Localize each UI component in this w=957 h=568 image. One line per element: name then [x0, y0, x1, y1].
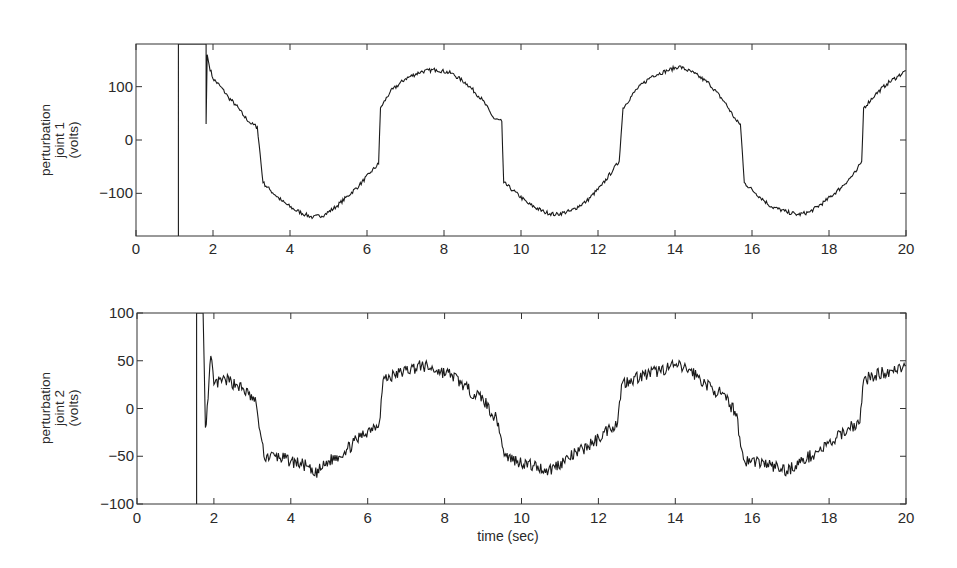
x-tick-label: 12: [590, 509, 607, 526]
plot-frame-joint-2: [137, 313, 906, 504]
ylabel-line-1: perturbation: [38, 372, 53, 444]
x-tick-label: 8: [440, 240, 448, 257]
ylabel-line-2: joint 2: [52, 390, 67, 427]
x-tick-label: 18: [821, 509, 838, 526]
figure: perturbation joint 1 (volts) 02468101214…: [0, 0, 957, 568]
y-tick-label: −50: [109, 447, 134, 464]
y-tick-label: 100: [108, 78, 133, 95]
x-tick-label: 18: [821, 240, 838, 257]
line-series-joint-1: [178, 44, 906, 236]
y-tick-label: 100: [109, 304, 134, 321]
ylabel-line-2: joint 1: [52, 122, 67, 159]
x-tick-label: 2: [209, 240, 217, 257]
plot-joint-2: perturbation joint 2 (volts) 02468101214…: [38, 304, 914, 544]
x-tick-label: 4: [286, 240, 294, 257]
ticks-joint-1: 02468101214161820−1000100: [99, 44, 914, 257]
x-tick-label: 12: [590, 240, 607, 257]
y-tick-label: 50: [117, 352, 134, 369]
x-tick-label: 20: [898, 509, 915, 526]
x-tick-label: 10: [513, 240, 530, 257]
x-axis-label: time (sec): [477, 528, 538, 544]
x-tick-label: 4: [287, 509, 295, 526]
y-tick-label: 0: [125, 131, 133, 148]
y-axis-label-joint-1: perturbation joint 1 (volts): [38, 104, 81, 176]
y-axis-label-joint-2: perturbation joint 2 (volts): [38, 372, 81, 444]
x-tick-label: 0: [132, 240, 140, 257]
ylabel-line-3: (volts): [66, 122, 81, 159]
x-tick-label: 14: [667, 509, 684, 526]
x-tick-label: 6: [363, 240, 371, 257]
x-tick-label: 8: [440, 509, 448, 526]
y-tick-label: 0: [126, 400, 134, 417]
x-tick-label: 2: [210, 509, 218, 526]
x-tick-label: 20: [898, 240, 915, 257]
y-tick-label: −100: [100, 495, 134, 512]
line-series-joint-2: [197, 313, 906, 504]
x-tick-label: 0: [133, 509, 141, 526]
x-tick-label: 16: [744, 240, 761, 257]
ticks-joint-2: 02468101214161820−100−50050100: [100, 304, 914, 526]
plot-joint-1: perturbation joint 1 (volts) 02468101214…: [38, 44, 914, 257]
ylabel-line-3: (volts): [66, 390, 81, 427]
plot-frame-joint-1: [136, 44, 906, 236]
x-tick-label: 6: [364, 509, 372, 526]
x-tick-label: 16: [744, 509, 761, 526]
x-tick-label: 14: [667, 240, 684, 257]
x-tick-label: 10: [513, 509, 530, 526]
y-tick-label: −100: [99, 184, 133, 201]
ylabel-line-1: perturbation: [38, 104, 53, 176]
